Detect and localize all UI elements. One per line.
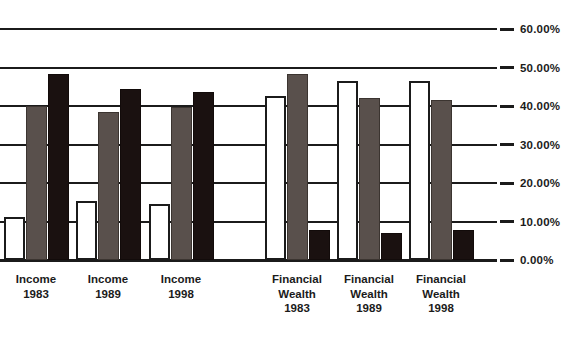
y-tick: 30.00% — [500, 137, 560, 153]
y-tick-label: 60.00% — [520, 23, 560, 35]
y-tick: 50.00% — [500, 60, 560, 76]
bar-series-gray-3 — [287, 74, 308, 260]
bar-series-white-2 — [149, 204, 170, 260]
bar-series-white-0 — [4, 217, 25, 261]
y-tick-label: 40.00% — [520, 100, 560, 112]
bar-series-white-5 — [409, 81, 430, 260]
tick-mark-icon — [500, 66, 514, 69]
bar-series-black-0 — [48, 74, 69, 260]
tick-mark-icon — [500, 220, 514, 223]
y-tick-label: 10.00% — [520, 216, 560, 228]
plot-area — [0, 0, 497, 262]
y-tick: 0.00% — [500, 252, 554, 268]
tick-mark-icon — [500, 143, 514, 146]
bars-layer — [0, 0, 497, 262]
bar-series-black-5 — [453, 230, 474, 260]
tick-mark-icon — [500, 105, 514, 108]
bar-series-black-2 — [193, 92, 214, 260]
bar-series-gray-4 — [359, 98, 380, 260]
bar-series-black-3 — [309, 230, 330, 260]
y-tick-label: 20.00% — [520, 177, 560, 189]
bar-series-gray-5 — [431, 100, 452, 260]
bar-chart: 60.00%50.00%40.00%30.00%20.00%10.00%0.00… — [0, 0, 579, 347]
tick-mark-icon — [500, 182, 514, 185]
y-tick: 40.00% — [500, 98, 560, 114]
y-tick: 20.00% — [500, 175, 560, 191]
tick-mark-icon — [500, 259, 514, 262]
x-axis-label-5: Financial Wealth 1998 — [396, 272, 486, 316]
bar-series-white-4 — [337, 81, 358, 260]
y-tick-label: 30.00% — [520, 139, 560, 151]
bar-series-black-4 — [381, 233, 402, 260]
y-tick-label: 50.00% — [520, 62, 560, 74]
tick-mark-icon — [500, 28, 514, 31]
x-axis-label-2: Income 1998 — [136, 272, 226, 301]
bar-series-gray-1 — [98, 112, 119, 260]
y-tick-label: 0.00% — [520, 254, 554, 266]
bar-series-gray-0 — [26, 106, 47, 260]
bar-series-gray-2 — [171, 107, 192, 260]
y-tick: 60.00% — [500, 21, 560, 37]
y-tick: 10.00% — [500, 214, 560, 230]
bar-series-black-1 — [120, 89, 141, 260]
bar-series-white-1 — [76, 201, 97, 260]
bar-series-white-3 — [265, 96, 286, 260]
